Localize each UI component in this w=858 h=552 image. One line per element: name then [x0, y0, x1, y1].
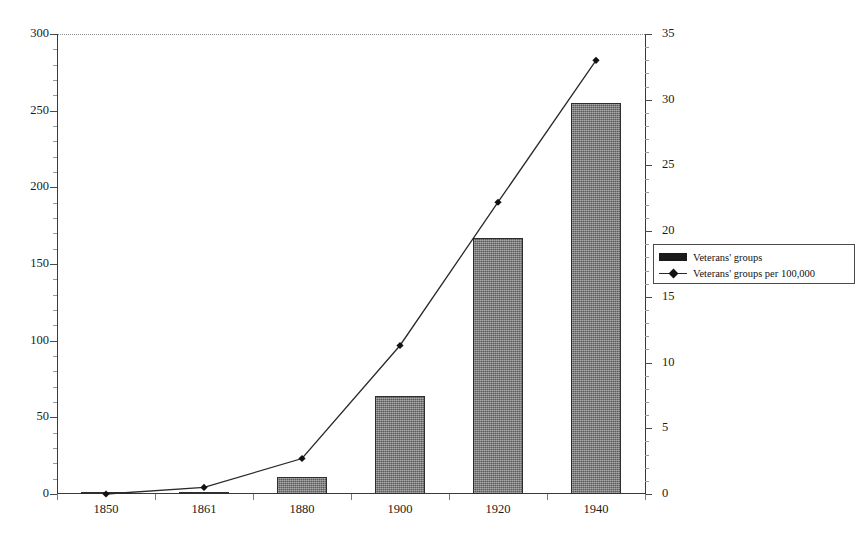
line-diamond-icon: [659, 269, 687, 278]
legend-label-bar: Veterans' groups: [693, 252, 762, 263]
line-marker[interactable]: 1850: 0: [102, 490, 109, 497]
chart-canvas: 050100150200250300 05101520253035 185018…: [0, 0, 858, 552]
line-path: [106, 60, 596, 494]
line-marker[interactable]: 1861: 0.5: [200, 484, 207, 491]
legend-item-line[interactable]: Veterans' groups per 100,000: [659, 265, 849, 281]
chart-legend: Veterans' groups Veterans' groups per 10…: [653, 244, 855, 284]
legend-label-line: Veterans' groups per 100,000: [693, 268, 815, 279]
legend-item-bar[interactable]: Veterans' groups: [659, 249, 849, 265]
bar-swatch-icon: [659, 253, 687, 261]
